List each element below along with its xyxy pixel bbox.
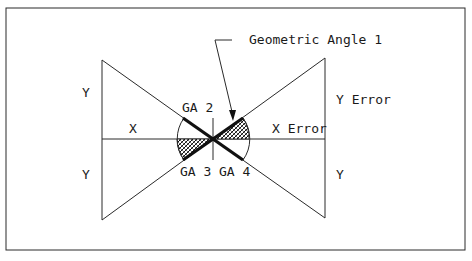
- label-y-bottom-left: Y: [82, 167, 90, 182]
- callout-label: Geometric Angle 1: [249, 32, 382, 47]
- label-x-left: X: [129, 121, 137, 136]
- label-y-error: Y Error: [336, 92, 391, 107]
- label-ga3: GA 3: [180, 164, 211, 179]
- geometric-angle-diagram: Geometric Angle 1 Y Y X X Error Y Error …: [0, 0, 472, 261]
- callout-leader-diagonal: [215, 40, 233, 116]
- label-y-bottom-right: Y: [336, 167, 344, 182]
- label-ga4: GA 4: [219, 164, 250, 179]
- label-x-error: X Error: [272, 121, 327, 136]
- label-ga2: GA 2: [182, 100, 213, 115]
- label-y-top-left: Y: [82, 85, 90, 100]
- callout-arrow-icon: [229, 110, 236, 121]
